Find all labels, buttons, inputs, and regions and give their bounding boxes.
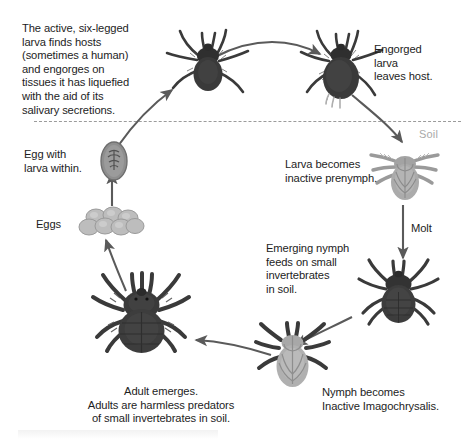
label-egg-with-larva: Egg with larva within. (24, 148, 104, 175)
figure-adult (90, 268, 194, 364)
label-emerging-nymph: Emerging nymph feeds on small invertebra… (266, 242, 376, 296)
bottom-caption-fade (18, 430, 218, 439)
label-larva-prenymph: Larva becomes inactive prenymph. (285, 158, 395, 185)
soil-boundary-line (34, 121, 461, 122)
figure-egg-cluster (78, 206, 146, 240)
figure-active-larva (163, 26, 253, 106)
soil-label: Soil (419, 128, 438, 140)
life-cycle-diagram: Soil (0, 0, 467, 441)
label-active-larva: The active, six-legged larva finds hosts… (22, 22, 172, 117)
label-adult-emerges: Adult emerges. Adults are harmless preda… (52, 385, 270, 426)
label-molt: Molt (411, 222, 432, 236)
label-engorged-larva: Engorged larva leaves host. (374, 43, 464, 84)
label-eggs: Eggs (36, 218, 61, 232)
label-nymph-imagochrysalis: Nymph becomes Inactive Imagochrysalis. (322, 386, 462, 413)
